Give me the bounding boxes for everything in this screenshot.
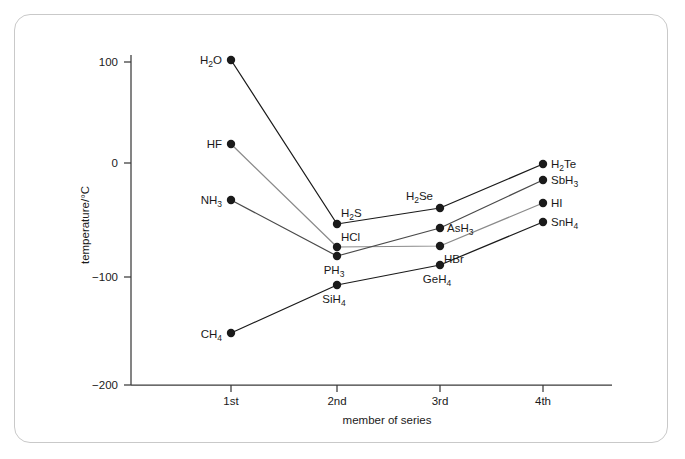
label-geh4-sub: 4 — [446, 278, 451, 288]
svg-text:H2S: H2S — [341, 207, 362, 222]
point-label-ch4: CH4 — [201, 328, 223, 343]
label-nh3-sub: 3 — [217, 199, 222, 209]
x-tick-label-4th: 4th — [535, 395, 551, 407]
label-ash3-main: AsH — [447, 222, 469, 234]
svg-text:SnH4: SnH4 — [551, 216, 578, 231]
figure-root: 100 0 −100 −200 1st 2nd 3rd 4th temperat… — [0, 0, 685, 459]
point-label-snh4: SnH4 — [551, 216, 578, 231]
point-label-ph3: PH3 — [324, 264, 345, 279]
label-sbh3-main: SbH — [551, 174, 573, 186]
svg-text:NH3: NH3 — [201, 194, 223, 209]
label-h2se-tail: Se — [419, 190, 433, 202]
label-ash3-sub: 3 — [469, 227, 474, 237]
svg-text:H2Se: H2Se — [406, 190, 433, 205]
label-snh4-main: SnH — [551, 216, 573, 228]
point-label-sbh3: SbH3 — [551, 174, 578, 189]
label-hf-main: HF — [207, 138, 222, 150]
data-point-markers — [227, 56, 547, 337]
point-label-h2se: H2Se — [406, 190, 433, 205]
point-h2te[interactable] — [539, 160, 547, 168]
point-hbr[interactable] — [436, 242, 444, 250]
y-tick-label-100: 100 — [99, 56, 118, 68]
svg-text:HF: HF — [207, 138, 222, 150]
point-h2s[interactable] — [333, 220, 341, 228]
y-tick-label-neg200: −200 — [92, 379, 118, 391]
point-h2se[interactable] — [436, 204, 444, 212]
point-label-hcl: HCl — [341, 231, 360, 243]
label-nh3-main: NH — [201, 194, 218, 206]
point-label-h2o: H2O — [200, 54, 222, 69]
point-hcl[interactable] — [333, 243, 341, 251]
series-line-group14 — [231, 222, 543, 333]
x-tick-label-2nd: 2nd — [327, 395, 346, 407]
y-tick-label-0: 0 — [112, 157, 118, 169]
label-hi-main: HI — [551, 197, 563, 209]
label-ch4-sub: 4 — [217, 333, 222, 343]
label-sih4-main: SiH — [322, 293, 341, 305]
point-label-geh4: GeH4 — [423, 273, 452, 288]
label-h2s-main: H — [341, 207, 349, 219]
label-ph3-sub: 3 — [340, 269, 345, 279]
series-line-group15 — [231, 180, 543, 256]
point-ch4[interactable] — [227, 329, 235, 337]
label-h2s-tail: S — [354, 207, 362, 219]
point-snh4[interactable] — [539, 218, 547, 226]
point-ph3[interactable] — [333, 252, 341, 260]
point-label-nh3: NH3 — [201, 194, 223, 209]
y-tick-label-neg100: −100 — [92, 271, 118, 283]
x-tick-labels: 1st 2nd 3rd 4th — [223, 395, 551, 407]
label-h2o-main: H — [200, 54, 208, 66]
label-hbr-main: HBr — [444, 253, 464, 265]
point-sbh3[interactable] — [539, 176, 547, 184]
label-h2te-tail: Te — [564, 158, 576, 170]
point-hi[interactable] — [539, 199, 547, 207]
point-label-hbr: HBr — [444, 253, 464, 265]
point-label-h2te: H2Te — [551, 158, 576, 173]
point-hf[interactable] — [227, 140, 235, 148]
label-ch4-main: CH — [201, 328, 218, 340]
point-sih4[interactable] — [333, 281, 341, 289]
svg-text:SiH4: SiH4 — [322, 293, 346, 308]
point-label-hi: HI — [551, 197, 563, 209]
series-line-group16 — [231, 60, 543, 224]
label-h2se-main: H — [406, 190, 414, 202]
x-axis-title: member of series — [343, 414, 432, 426]
line-chart: 100 0 −100 −200 1st 2nd 3rd 4th temperat… — [0, 0, 685, 459]
svg-text:H2Te: H2Te — [551, 158, 576, 173]
svg-text:CH4: CH4 — [201, 328, 223, 343]
point-ash3[interactable] — [436, 224, 444, 232]
svg-text:HBr: HBr — [444, 253, 464, 265]
x-tick-label-3rd: 3rd — [432, 395, 449, 407]
point-label-hf: HF — [207, 138, 222, 150]
svg-text:AsH3: AsH3 — [447, 222, 474, 237]
point-nh3[interactable] — [227, 196, 235, 204]
svg-text:HI: HI — [551, 197, 563, 209]
label-h2o-tail: O — [213, 54, 222, 66]
label-snh4-sub: 4 — [573, 221, 578, 231]
svg-text:GeH4: GeH4 — [423, 273, 452, 288]
svg-text:H2O: H2O — [200, 54, 222, 69]
series-line-group17 — [231, 144, 543, 247]
svg-text:SbH3: SbH3 — [551, 174, 578, 189]
label-ph3-main: PH — [324, 264, 340, 276]
label-sih4-sub: 4 — [341, 298, 346, 308]
point-geh4[interactable] — [436, 261, 444, 269]
x-tick-label-1st: 1st — [223, 395, 239, 407]
point-label-h2s: H2S — [341, 207, 362, 222]
point-label-ash3: AsH3 — [447, 222, 474, 237]
svg-text:HCl: HCl — [341, 231, 360, 243]
svg-text:PH3: PH3 — [324, 264, 345, 279]
y-tick-labels: 100 0 −100 −200 — [92, 56, 118, 391]
point-h2o[interactable] — [227, 56, 235, 64]
label-h2te-main: H — [551, 158, 559, 170]
label-hcl-main: HCl — [341, 231, 360, 243]
y-axis-title: temperature/°C — [79, 186, 91, 264]
label-geh4-main: GeH — [423, 273, 447, 285]
point-label-sih4: SiH4 — [322, 293, 346, 308]
label-sbh3-sub: 3 — [573, 179, 578, 189]
